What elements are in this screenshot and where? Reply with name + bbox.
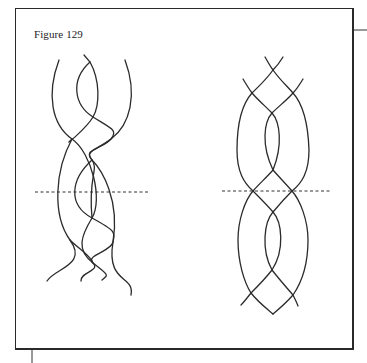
left-braid xyxy=(47,55,131,295)
left-braid-strand-6 xyxy=(47,139,75,281)
right-braid-strand-6 xyxy=(265,212,298,306)
left-braid-strand-2 xyxy=(69,55,98,142)
right-braid-strand-5 xyxy=(241,212,281,305)
right-braid xyxy=(237,57,309,314)
figure-diagram xyxy=(0,0,367,363)
left-braid-strand-3 xyxy=(77,62,132,295)
